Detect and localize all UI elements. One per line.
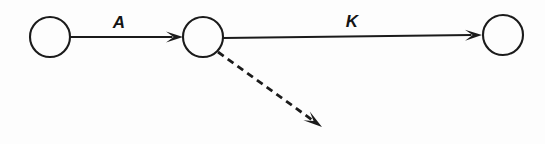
edge-label-a: A xyxy=(112,13,125,32)
edge-k-line xyxy=(223,35,471,38)
edge-label-k: K xyxy=(346,12,360,31)
edge-k xyxy=(223,30,482,41)
edge-a xyxy=(70,32,183,43)
node-circle-3[interactable] xyxy=(483,15,523,55)
edge-dashed-arrowhead xyxy=(303,111,322,127)
edge-dashed xyxy=(218,52,322,127)
node-circle-1[interactable] xyxy=(30,17,70,57)
node-circle-2[interactable] xyxy=(183,17,223,57)
edge-dashed-line xyxy=(218,52,312,120)
diagram-svg: A K xyxy=(0,0,545,144)
diagram-canvas: A K xyxy=(0,0,545,144)
